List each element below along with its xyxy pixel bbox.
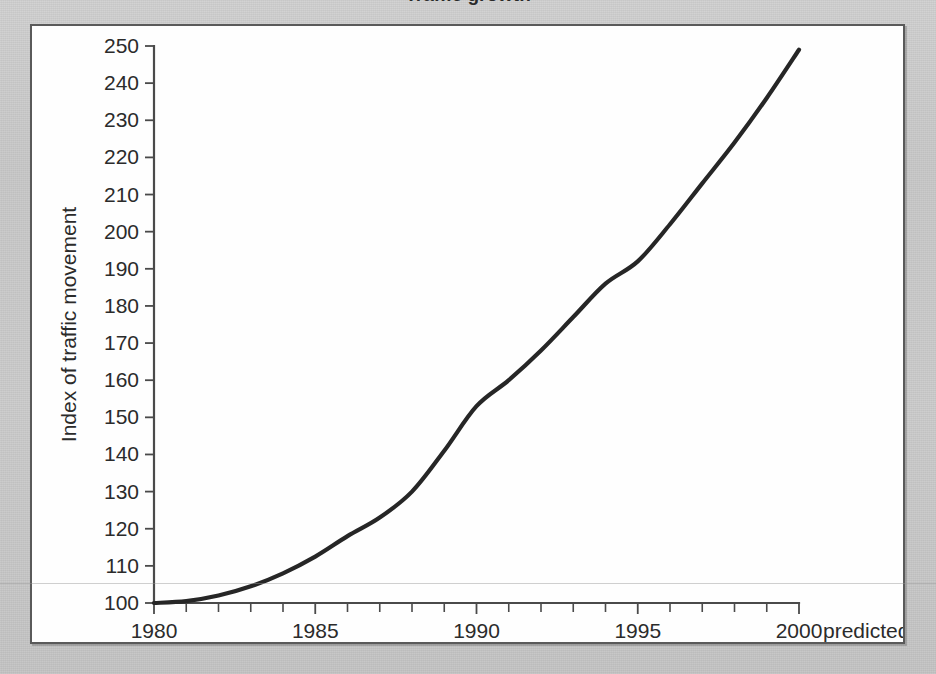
axis-lines xyxy=(154,46,799,603)
x-axis-tick-label: 1995 xyxy=(614,619,661,642)
y-axis-tick-label: 170 xyxy=(104,331,139,354)
y-axis-tick-label: 160 xyxy=(104,368,139,391)
y-axis-tick-label: 100 xyxy=(104,591,139,614)
y-axis-tick-label: 180 xyxy=(104,294,139,317)
cut-off-title: Traffic growth xyxy=(0,0,936,14)
y-axis-tick-label: 230 xyxy=(104,108,139,131)
y-axis-tick-label: 200 xyxy=(104,220,139,243)
predicted-annotation: predicted xyxy=(823,619,903,642)
x-axis-tick-label: 2000 xyxy=(776,619,823,642)
y-axis-tick-label: 130 xyxy=(104,480,139,503)
y-axis-tick-label: 240 xyxy=(104,71,139,94)
x-axis-tick-label: 1980 xyxy=(131,619,178,642)
scanned-page: Traffic growth 1001101201301401501601701… xyxy=(0,0,936,674)
x-axis-tick-label: 1985 xyxy=(292,619,339,642)
figure-frame: 1001101201301401501601701801902002102202… xyxy=(30,24,905,644)
line-chart: 1001101201301401501601701801902002102202… xyxy=(32,26,903,642)
data-series-line xyxy=(154,50,799,603)
y-axis-tick-label: 150 xyxy=(104,405,139,428)
x-axis-tick-label: 1990 xyxy=(453,619,500,642)
y-axis-tick-label: 220 xyxy=(104,145,139,168)
y-axis-tick-label: 190 xyxy=(104,257,139,280)
y-axis-tick-label: 140 xyxy=(104,442,139,465)
y-axis-tick-label: 120 xyxy=(104,517,139,540)
y-axis-tick-label: 250 xyxy=(104,34,139,57)
y-axis-title: Index of traffic movement xyxy=(57,207,80,443)
y-axis-tick-label: 110 xyxy=(106,554,139,577)
y-axis-tick-label: 210 xyxy=(104,183,139,206)
cut-off-title-text: Traffic growth xyxy=(405,0,531,4)
